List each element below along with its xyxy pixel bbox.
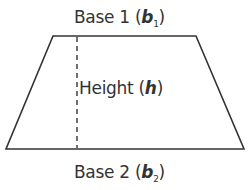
height-close-paren: ) (157, 78, 163, 98)
base1-variable: b (141, 7, 153, 27)
base1-close-paren: ) (159, 7, 165, 27)
base2-close-paren: ) (159, 162, 165, 182)
base2-variable: b (141, 162, 153, 182)
height-variable: h (145, 78, 157, 98)
base2-label-text: Base 2 ( (74, 162, 141, 182)
height-label: Height (h) (79, 78, 163, 98)
base2-label: Base 2 (b2) (74, 162, 165, 182)
height-label-text: Height ( (79, 78, 145, 98)
base1-label: Base 1 (b1) (74, 7, 165, 27)
base1-label-text: Base 1 ( (74, 7, 141, 27)
